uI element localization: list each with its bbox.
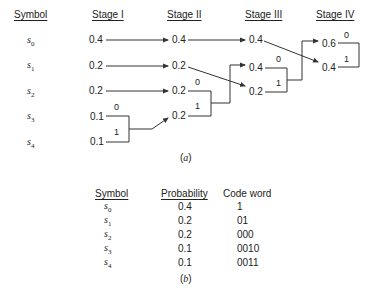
caption-a: (a): [180, 152, 192, 163]
table-symbol: s1: [104, 214, 111, 228]
table-codeword: 000: [237, 229, 254, 240]
table-probability: 0.2: [178, 229, 192, 240]
table-probability: 0.1: [178, 243, 192, 254]
table-symbol: s3: [104, 242, 111, 256]
table-codeword: 1: [237, 201, 243, 212]
table-codeword: 01: [237, 215, 248, 226]
table-header-probability: Probability: [161, 188, 208, 199]
table-header-codeword: Code word: [223, 188, 271, 199]
table-symbol: s4: [104, 256, 111, 270]
table-probability: 0.2: [178, 215, 192, 226]
table-symbol: s0: [104, 200, 111, 214]
caption-b: (b): [180, 273, 192, 284]
table-probability: 0.4: [178, 201, 192, 212]
table-symbol: s2: [104, 228, 111, 242]
table-codeword: 0010: [237, 243, 259, 254]
table-probability: 0.1: [178, 257, 192, 268]
table-header-symbol: Symbol: [95, 188, 128, 199]
table-codeword: 0011: [237, 257, 259, 268]
